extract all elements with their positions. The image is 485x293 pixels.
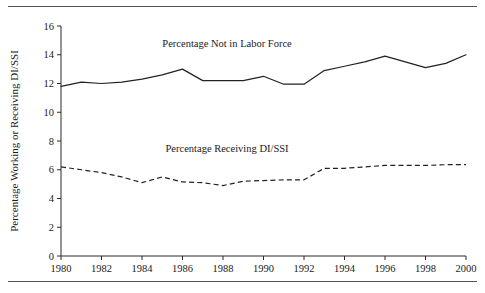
series-line-0 bbox=[61, 55, 466, 87]
x-tick-label: 1994 bbox=[334, 263, 356, 274]
y-axis: 0246810121416 bbox=[44, 21, 62, 262]
series-line-1 bbox=[61, 165, 466, 186]
x-tick-label: 1988 bbox=[213, 263, 234, 274]
x-tick-label: 1982 bbox=[91, 263, 112, 274]
x-tick-label: 1996 bbox=[375, 263, 396, 274]
y-tick-label: 4 bbox=[49, 193, 55, 204]
y-axis-ticks bbox=[57, 26, 61, 256]
figure-panel: gure 1. Percentage Working or Receiving … bbox=[0, 0, 485, 293]
y-axis-tick-labels: 0246810121416 bbox=[44, 21, 55, 262]
y-tick-label: 8 bbox=[49, 136, 54, 147]
y-tick-label: 6 bbox=[49, 164, 54, 175]
series-label-0: Percentage Not in Labor Force bbox=[162, 38, 292, 49]
x-tick-label: 2000 bbox=[456, 263, 477, 274]
x-tick-label: 1990 bbox=[253, 263, 274, 274]
x-axis: 1980198219841986198819901992199419961998… bbox=[51, 256, 477, 274]
series-inline-labels: Percentage Not in Labor ForcePercentage … bbox=[162, 38, 292, 154]
x-tick-label: 1992 bbox=[294, 263, 315, 274]
x-axis-tick-labels: 1980198219841986198819901992199419961998… bbox=[51, 263, 477, 274]
y-tick-label: 10 bbox=[44, 107, 55, 118]
x-tick-label: 1984 bbox=[132, 263, 154, 274]
x-tick-label: 1980 bbox=[51, 263, 72, 274]
y-tick-label: 14 bbox=[44, 49, 55, 60]
line-chart: 0246810121416 19801982198419861988199019… bbox=[0, 0, 485, 293]
y-tick-label: 16 bbox=[44, 21, 55, 32]
y-tick-label: 0 bbox=[49, 251, 54, 262]
bottom-horizontal-rule bbox=[8, 281, 477, 282]
y-tick-label: 2 bbox=[49, 222, 54, 233]
top-horizontal-rule bbox=[8, 6, 477, 7]
y-axis-title: Percentage Working or Receiving DI/SSI bbox=[8, 50, 20, 232]
x-tick-label: 1998 bbox=[415, 263, 436, 274]
data-series-group bbox=[61, 55, 466, 186]
y-tick-label: 12 bbox=[44, 78, 55, 89]
x-axis-ticks bbox=[61, 256, 466, 260]
series-label-1: Percentage Receiving DI/SSI bbox=[166, 143, 290, 154]
x-tick-label: 1986 bbox=[172, 263, 193, 274]
